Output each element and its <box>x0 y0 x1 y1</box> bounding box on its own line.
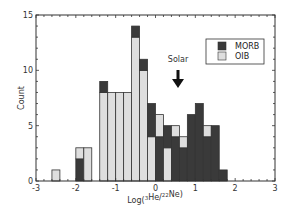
bar-oib <box>84 148 92 181</box>
legend-swatch-morb <box>218 42 226 50</box>
legend-label-oib: OIB <box>235 52 249 61</box>
tick-label: 2 <box>233 184 238 193</box>
y-axis-title: Count <box>17 86 26 110</box>
legend-label-morb: MORB <box>235 42 259 51</box>
bar-oib <box>116 92 124 181</box>
bar-morb <box>132 26 140 37</box>
bar-oib <box>156 115 164 137</box>
tick-label: 0 <box>153 184 158 193</box>
bar-morb <box>148 104 156 137</box>
bar-morb <box>219 170 227 181</box>
bar-oib <box>108 92 116 181</box>
solar-annotation: Solar <box>168 55 189 88</box>
tick-label: 3 <box>272 184 277 193</box>
bar-oib <box>171 126 179 137</box>
legend-swatch-oib <box>218 52 226 60</box>
bar-morb <box>187 115 195 181</box>
bar-morb <box>100 81 108 92</box>
tick-label: 5 <box>28 122 33 131</box>
histogram-chart: -3-2-10123051015 Count Log(3He/22Ne) MOR… <box>0 0 292 221</box>
tick-label: -3 <box>32 184 40 193</box>
bar-morb <box>163 126 171 148</box>
tick-label: 0 <box>28 177 33 186</box>
x-axis-title: Log(3He/22Ne) <box>127 190 183 205</box>
bar-morb <box>171 137 179 181</box>
solar-label: Solar <box>168 55 189 64</box>
bar-oib <box>148 137 156 181</box>
bar-oib <box>100 92 108 181</box>
bar-morb <box>195 104 203 181</box>
bar-oib <box>52 170 60 181</box>
histogram-bars <box>52 26 227 181</box>
tick-label: 15 <box>23 11 33 20</box>
bar-morb <box>156 137 164 181</box>
tick-label: 1 <box>193 184 198 193</box>
down-arrow-icon <box>172 70 184 88</box>
bar-oib <box>140 70 148 181</box>
bar-morb <box>179 148 187 181</box>
tick-label: 10 <box>23 66 33 75</box>
bar-morb <box>203 137 211 181</box>
bar-oib <box>203 126 211 137</box>
bar-morb <box>140 59 148 70</box>
bar-oib <box>132 37 140 181</box>
bar-oib <box>76 148 84 159</box>
bar-oib <box>163 148 171 181</box>
bar-morb <box>211 126 219 181</box>
tick-label: -2 <box>72 184 80 193</box>
legend: MORB OIB <box>206 39 264 64</box>
tick-label: -1 <box>112 184 120 193</box>
bar-oib <box>179 137 187 148</box>
bar-oib <box>124 92 132 181</box>
bar-morb <box>76 159 84 181</box>
